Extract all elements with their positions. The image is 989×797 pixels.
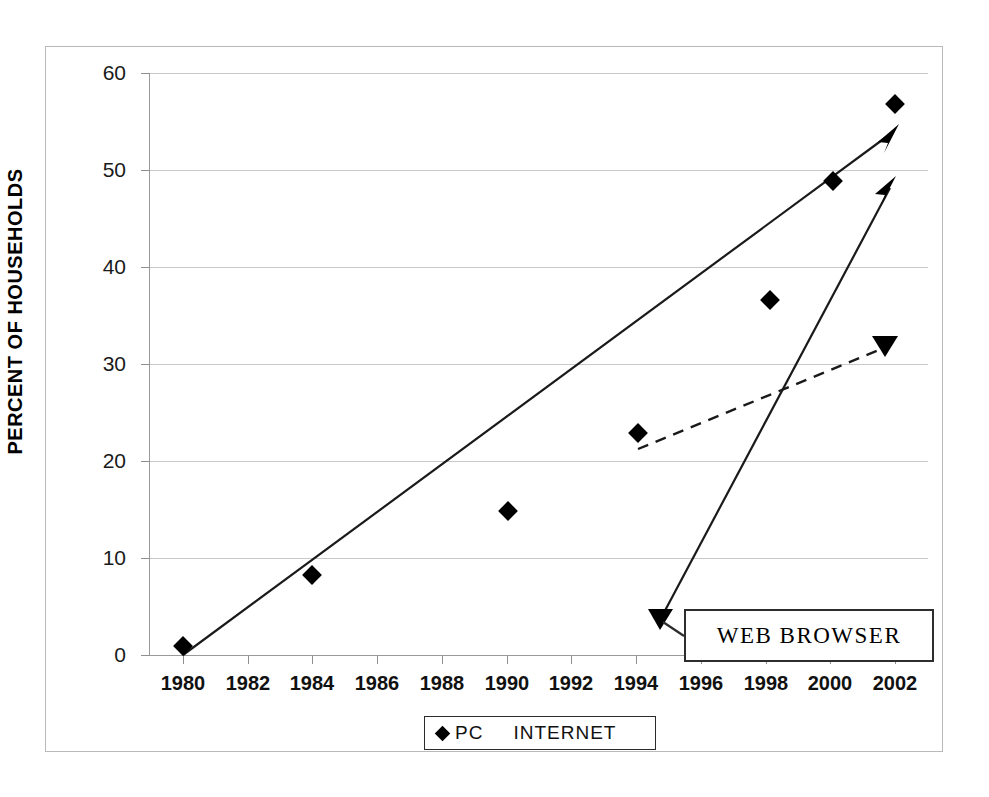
chart-legend: PC INTERNET [424,716,656,750]
y-tick-20 [141,461,150,462]
x-tick-1984 [312,656,313,664]
legend-label-internet: INTERNET [513,722,616,744]
x-tick-label-1998: 1998 [731,672,801,695]
plot-area [149,73,928,655]
gridline-10 [149,558,928,559]
x-tick-label-1992: 1992 [536,672,606,695]
x-tick-1992 [571,656,572,664]
y-tick-60 [141,73,150,74]
gridline-50 [149,170,928,171]
x-tick-label-1990: 1990 [472,672,542,695]
y-tick-50 [141,170,150,171]
y-tick-label-60: 60 [42,61,126,85]
x-tick-label-1980: 1980 [148,672,218,695]
legend-label-pc: PC [455,722,483,744]
web-browser-callout: WEB BROWSER [684,609,934,662]
y-tick-0 [141,655,150,656]
y-axis-label: PERCENT OF HOUSEHOLDS [4,92,27,532]
y-tick-label-30: 30 [42,352,126,376]
y-tick-label-40: 40 [42,255,126,279]
y-tick-40 [141,267,150,268]
x-tick-label-1994: 1994 [601,672,671,695]
x-tick-1980 [183,656,184,664]
gridline-20 [149,461,928,462]
y-tick-10 [141,558,150,559]
y-tick-30 [141,364,150,365]
x-tick-label-2002: 2002 [860,672,930,695]
x-tick-1982 [248,656,249,664]
x-tick-label-1982: 1982 [213,672,283,695]
x-tick-label-1996: 1996 [666,672,736,695]
gridline-30 [149,364,928,365]
x-tick-1988 [442,656,443,664]
legend-diamond-icon [435,725,451,741]
gridline-40 [149,267,928,268]
y-tick-label-10: 10 [42,546,126,570]
x-tick-label-1986: 1986 [342,672,412,695]
x-tick-label-1984: 1984 [277,672,347,695]
y-tick-label-0: 0 [42,643,126,667]
x-tick-1990 [507,656,508,664]
y-tick-label-20: 20 [42,449,126,473]
chart-figure: PERCENT OF HOUSEHOLDS 60 50 40 30 20 10 … [0,0,989,797]
x-tick-label-2000: 2000 [795,672,865,695]
x-tick-1994 [636,656,637,664]
gridline-60 [149,73,928,74]
x-tick-label-1988: 1988 [407,672,477,695]
y-tick-label-50: 50 [42,158,126,182]
web-browser-callout-label: WEB BROWSER [717,623,902,649]
x-tick-1986 [377,656,378,664]
